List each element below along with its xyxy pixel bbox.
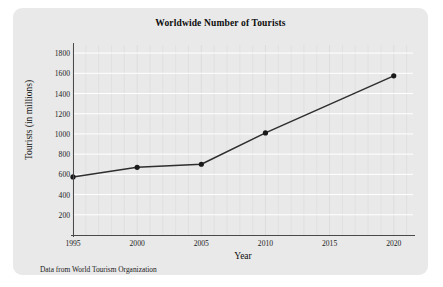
y-tick-label: 800: [36, 150, 70, 159]
x-axis-tick-labels: 199520002005201020152020: [13, 239, 443, 251]
series-polyline: [73, 76, 394, 177]
y-tick-label: 1800: [36, 49, 70, 58]
x-tick-label: 2000: [117, 239, 157, 248]
y-tick-label: 200: [36, 210, 70, 219]
data-point-marker: [135, 165, 140, 170]
chart-title: Worldwide Number of Tourists: [13, 18, 428, 28]
data-point-marker: [263, 130, 268, 135]
x-tick-label: 2005: [181, 239, 221, 248]
y-axis-line: [73, 43, 74, 237]
x-tick-label: 2020: [374, 239, 414, 248]
figure-panel: Worldwide Number of Tourists 20040060080…: [13, 8, 428, 275]
y-tick-label: 1200: [36, 109, 70, 118]
source-caption: Data from World Tourism Organization: [40, 265, 157, 274]
y-tick-label: 400: [36, 190, 70, 199]
x-tick-label: 2010: [245, 239, 285, 248]
y-axis-title: Tourists (in millions): [24, 60, 34, 180]
data-point-marker: [391, 73, 396, 78]
data-series-line: [73, 45, 413, 235]
plot-area: [73, 45, 413, 235]
data-point-marker: [199, 162, 204, 167]
x-axis-title: Year: [73, 251, 413, 261]
y-tick-label: 1000: [36, 129, 70, 138]
y-tick-label: 1600: [36, 69, 70, 78]
y-tick-label: 1400: [36, 89, 70, 98]
x-tick-label: 1995: [53, 239, 93, 248]
x-axis-line: [71, 235, 415, 236]
y-tick-label: 600: [36, 170, 70, 179]
x-tick-label: 2015: [310, 239, 350, 248]
